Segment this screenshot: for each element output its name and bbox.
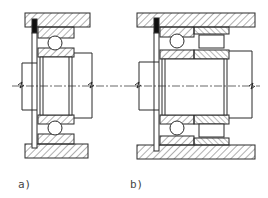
panel-a [12, 13, 130, 158]
panel-a-label: a) [18, 178, 31, 191]
bearing-drawing [0, 0, 268, 198]
panel-b-label: b) [130, 178, 143, 191]
panel-b [130, 13, 260, 159]
